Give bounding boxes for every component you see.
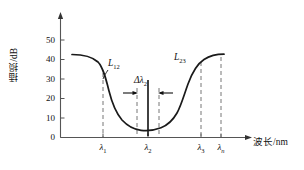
y-axis-arrowhead bbox=[58, 12, 63, 19]
annotation-l12: L12 bbox=[108, 58, 120, 70]
annotation-l12-sub: 12 bbox=[113, 63, 120, 70]
y-axis-label: 插损/dB bbox=[9, 48, 25, 82]
y-tick-label-0: 0 bbox=[33, 132, 55, 142]
x-tick-label-lambdan: λn bbox=[212, 142, 230, 154]
x-tick-sub-lambda1: 1 bbox=[103, 147, 106, 154]
annotation-delta-lambda2-sub: 2 bbox=[144, 80, 147, 87]
annotation-delta-lambda2: Δλ2 bbox=[134, 75, 147, 87]
x-tick-label-lambda1: λ1 bbox=[94, 142, 112, 154]
y-tick-label-10: 10 bbox=[33, 113, 55, 123]
annotation-delta-lambda2-base: Δλ bbox=[134, 75, 144, 85]
annotation-l23-sub: 23 bbox=[179, 57, 186, 64]
figure-container: 插损/dB 波长/nm 0 10 20 30 40 50 λ1 λ2 λ3 λn… bbox=[0, 0, 304, 170]
x-tick-label-lambda3: λ3 bbox=[192, 142, 210, 154]
x-tick-label-lambda2: λ2 bbox=[139, 142, 157, 154]
annotation-l23: L23 bbox=[174, 52, 186, 64]
dashed-guides bbox=[103, 57, 221, 137]
y-tick-label-50: 50 bbox=[33, 35, 55, 45]
y-tick-label-40: 40 bbox=[33, 54, 55, 64]
x-tick-sub-lambda2: 2 bbox=[148, 147, 151, 154]
x-tick-sub-lambdan: n bbox=[221, 147, 224, 154]
x-tick-sub-lambda3: 3 bbox=[201, 147, 204, 154]
x-axis-arrowhead bbox=[245, 135, 252, 140]
y-tick-label-20: 20 bbox=[33, 93, 55, 103]
x-axis bbox=[61, 134, 253, 141]
x-axis-label: 波长/nm bbox=[253, 134, 288, 148]
y-tick-label-30: 30 bbox=[33, 74, 55, 84]
y-axis bbox=[58, 12, 65, 138]
